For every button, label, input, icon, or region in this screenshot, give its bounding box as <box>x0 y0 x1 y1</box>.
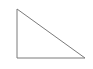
diagram-canvas <box>0 0 93 69</box>
right-triangle-shape <box>17 9 85 58</box>
triangle-figure <box>0 0 93 69</box>
